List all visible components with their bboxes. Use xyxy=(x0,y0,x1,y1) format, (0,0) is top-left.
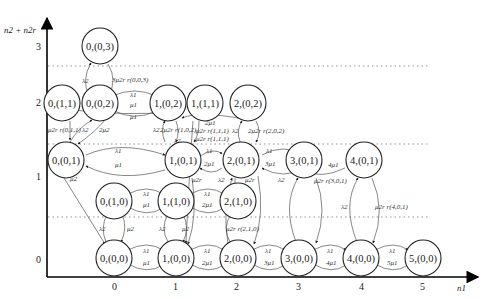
svg-text:λ1: λ1 xyxy=(205,147,213,155)
svg-text:0,(0,2): 0,(0,2) xyxy=(86,98,114,110)
svg-text:μ1: μ1 xyxy=(130,113,137,121)
svg-text:3: 3 xyxy=(36,41,41,52)
svg-text:0,(1,0): 0,(1,0) xyxy=(100,196,128,208)
svg-text:λ2: λ2 xyxy=(98,225,106,233)
svg-text:λ2: λ2 xyxy=(217,176,225,184)
svg-text:λ2: λ2 xyxy=(152,126,160,134)
svg-text:μ2r r(2,1,0): μ2r r(2,1,0) xyxy=(226,225,260,233)
node-0-011: 0,(1,1) xyxy=(44,85,80,121)
svg-text:4,(0,1): 4,(0,1) xyxy=(350,155,378,167)
svg-text:2,(0,1): 2,(0,1) xyxy=(227,155,255,167)
node-5-000: 5,(0,0) xyxy=(405,240,441,276)
svg-text:μ2r r(1,1,1): μ2r r(1,1,1) xyxy=(196,127,230,135)
svg-text:4: 4 xyxy=(359,281,364,292)
svg-text:2,(0,2): 2,(0,2) xyxy=(234,98,262,110)
svg-text:λ1: λ1 xyxy=(388,247,396,255)
svg-text:2μ1: 2μ1 xyxy=(204,160,215,168)
svg-text:5μ1: 5μ1 xyxy=(387,259,398,267)
svg-text:2μ2r r(2,0,2): 2μ2r r(2,0,2) xyxy=(248,127,285,135)
svg-text:1,(0,2): 1,(0,2) xyxy=(154,98,182,110)
svg-text:2μ1: 2μ1 xyxy=(202,201,213,209)
svg-text:3,(0,0): 3,(0,0) xyxy=(285,253,313,265)
svg-text:μ2r r(3,0,1): μ2r r(3,0,1) xyxy=(314,177,348,185)
node-1-000: 1,(0,0) xyxy=(158,240,194,276)
svg-text:μ1: μ1 xyxy=(143,201,150,209)
svg-text:0,(0,0): 0,(0,0) xyxy=(100,253,128,265)
svg-text:1,(0,1): 1,(0,1) xyxy=(169,155,197,167)
nodes: 0,(0,3) 0,(1,1) 0,(0,2) 1,(0,2) 1,(1,1) … xyxy=(44,28,441,276)
svg-text:3μ1: 3μ1 xyxy=(263,259,275,267)
node-0-001: 0,(0,1) xyxy=(48,142,84,178)
x-axis-title: n1 xyxy=(457,283,466,293)
state-diagram: n2 + n2r n1 0 1 2 3 0 1 2 3 4 5 xyxy=(0,0,493,299)
y-ticks: 0 1 2 3 xyxy=(36,41,41,265)
svg-text:3μ2r r(0,0,3): 3μ2r r(0,0,3) xyxy=(111,76,149,84)
svg-text:0,(0,1): 0,(0,1) xyxy=(52,155,80,167)
node-0-002: 0,(0,2) xyxy=(82,85,118,121)
svg-text:2μ1: 2μ1 xyxy=(202,259,213,267)
svg-text:4,(0,0): 4,(0,0) xyxy=(347,253,375,265)
y-axis-title: n2 + n2r xyxy=(4,25,37,35)
svg-text:μ1: μ1 xyxy=(130,101,137,109)
node-0-000: 0,(0,0) xyxy=(96,240,132,276)
svg-text:1,(0,0): 1,(0,0) xyxy=(162,253,190,265)
svg-text:3μ1: 3μ1 xyxy=(264,160,276,168)
svg-text:5: 5 xyxy=(420,281,425,292)
svg-text:1: 1 xyxy=(173,281,178,292)
svg-text:0: 0 xyxy=(36,254,41,265)
node-4-001: 4,(0,1) xyxy=(346,142,382,178)
node-2-002: 2,(0,2) xyxy=(230,85,266,121)
node-1-010: 1,(1,0) xyxy=(158,183,194,219)
svg-text:1: 1 xyxy=(36,171,41,182)
svg-text:1,(1,0): 1,(1,0) xyxy=(162,196,190,208)
svg-text:μ2r r(4,0,1): μ2r r(4,0,1) xyxy=(375,203,409,211)
svg-text:2μ2: 2μ2 xyxy=(99,126,110,134)
svg-text:μ1: μ1 xyxy=(115,161,122,169)
node-0-010: 0,(1,0) xyxy=(96,183,132,219)
svg-text:μ2: μ2 xyxy=(127,225,135,233)
node-3-000: 3,(0,0) xyxy=(281,240,317,276)
node-4-000: 4,(0,0) xyxy=(343,240,379,276)
svg-text:3,(0,1): 3,(0,1) xyxy=(290,155,318,167)
svg-text:5,(0,0): 5,(0,0) xyxy=(409,253,437,265)
svg-text:2: 2 xyxy=(234,281,239,292)
svg-text:4μ1: 4μ1 xyxy=(328,161,339,169)
svg-text:0,(1,1): 0,(1,1) xyxy=(48,98,76,110)
svg-text:3: 3 xyxy=(296,281,301,292)
svg-text:μ2: μ2 xyxy=(182,225,190,233)
svg-text:λ2: λ2 xyxy=(340,203,348,211)
svg-text:2,(0,0): 2,(0,0) xyxy=(224,253,252,265)
svg-text:2μ2r r(1,0,2): 2μ2r r(1,0,2) xyxy=(160,126,197,134)
svg-text:λ1: λ1 xyxy=(203,190,211,198)
svg-text:0,(0,3): 0,(0,3) xyxy=(86,41,114,53)
svg-text:λ1: λ1 xyxy=(264,247,272,255)
svg-text:2: 2 xyxy=(36,97,41,108)
node-2-010: 2,(1,0) xyxy=(220,183,256,219)
svg-text:λ2: λ2 xyxy=(81,77,89,85)
node-0-003: 0,(0,3) xyxy=(82,28,118,64)
svg-text:λ2: λ2 xyxy=(231,127,239,135)
svg-text:4μ1: 4μ1 xyxy=(326,259,337,267)
x-ticks: 0 1 2 3 4 5 xyxy=(112,281,425,292)
svg-text:μ2r r(0,1,1): μ2r r(0,1,1) xyxy=(48,126,82,134)
svg-text:λ2: λ2 xyxy=(158,225,166,233)
svg-text:λ2: λ2 xyxy=(277,176,285,184)
svg-text:μ1: μ1 xyxy=(143,259,150,267)
svg-text:λ1: λ1 xyxy=(265,147,273,155)
svg-text:λ1: λ1 xyxy=(326,247,334,255)
node-1-002: 1,(0,2) xyxy=(150,85,186,121)
svg-text:μ2r: μ2r xyxy=(192,176,202,184)
svg-text:λ1: λ1 xyxy=(203,247,211,255)
svg-text:λ1: λ1 xyxy=(129,91,137,99)
node-2-000: 2,(0,0) xyxy=(220,240,256,276)
svg-text:λ2: λ2 xyxy=(81,126,89,134)
svg-text:μ2r r(1,1,1): μ2r r(1,1,1) xyxy=(196,135,230,143)
node-1-111: 1,(1,1) xyxy=(187,85,223,121)
svg-text:1,(1,1): 1,(1,1) xyxy=(191,98,219,110)
svg-text:2,(1,0): 2,(1,0) xyxy=(224,196,252,208)
svg-text:0: 0 xyxy=(112,281,117,292)
node-1-001: 1,(0,1) xyxy=(165,142,201,178)
node-3-001: 3,(0,1) xyxy=(286,142,322,178)
svg-text:λ1: λ1 xyxy=(142,247,150,255)
svg-text:λ1: λ1 xyxy=(114,147,122,155)
